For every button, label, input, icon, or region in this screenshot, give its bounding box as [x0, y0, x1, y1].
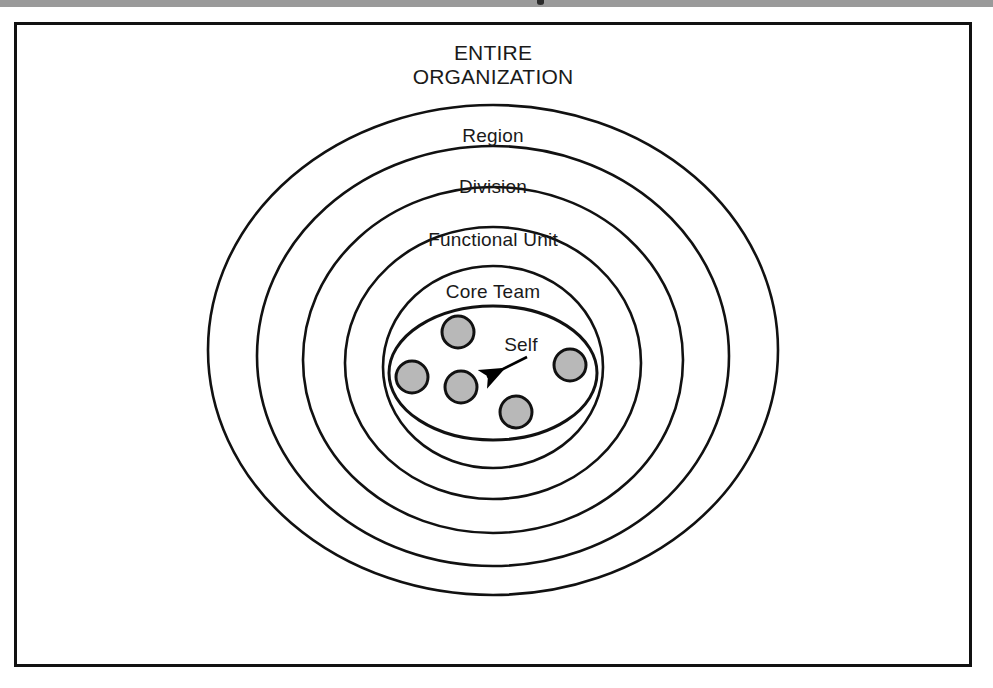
ring-label-functional-unit: Functional Unit	[428, 229, 558, 251]
member-circle-self	[445, 371, 477, 403]
figure-title-line-1: ENTIRE	[454, 40, 532, 65]
member-circle-right	[554, 349, 586, 381]
self-pointer-arrow	[487, 357, 527, 377]
self-annotation-label: Self	[504, 334, 538, 356]
member-circle-left	[396, 361, 428, 393]
ring-ellipse-region	[257, 146, 729, 566]
member-circle-top	[442, 316, 474, 348]
ring-label-division: Division	[459, 176, 527, 198]
page-canvas: ENTIRE ORGANIZATION Region Division Func…	[0, 0, 993, 688]
ring-label-core-team: Core Team	[446, 281, 540, 303]
member-circle-bottom	[500, 396, 532, 428]
figure-title-line-2: ORGANIZATION	[413, 64, 574, 89]
concentric-ellipse-diagram	[0, 0, 993, 688]
ring-label-region: Region	[462, 125, 523, 147]
